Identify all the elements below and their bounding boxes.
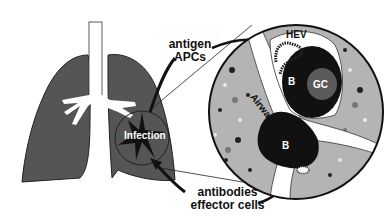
infection-label: Infection (124, 131, 166, 141)
lung-immunity-diagram: antigen APCs antibodies effector cells I… (0, 0, 389, 223)
antibodies-effector-label: antibodies effector cells (180, 186, 275, 212)
apcs-label: APCs (160, 51, 220, 64)
antigen-apcs-label: antigen APCs (160, 38, 220, 64)
lower-vessel (297, 167, 309, 174)
trachea (89, 22, 102, 97)
germinal-center-label: GC (313, 80, 328, 90)
effector-cells-label: effector cells (180, 199, 275, 212)
b-follicle-lower-label: B (282, 141, 289, 151)
hev-label: HEV (286, 30, 307, 40)
right-lung (22, 55, 91, 182)
t-zone-label: T (314, 47, 320, 57)
b-follicle-upper-label: B (288, 77, 295, 87)
